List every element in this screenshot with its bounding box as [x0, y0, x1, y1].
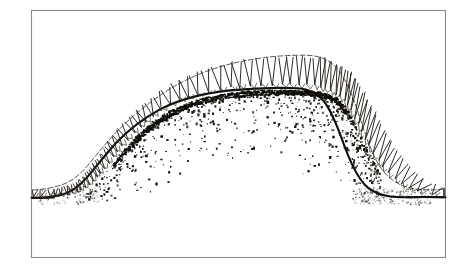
illustration-canvas: Hand-drawn cross-section illustration Bl… [0, 0, 464, 269]
cross-section-drawing: Hand-drawn cross-section illustration Bl… [0, 0, 464, 269]
